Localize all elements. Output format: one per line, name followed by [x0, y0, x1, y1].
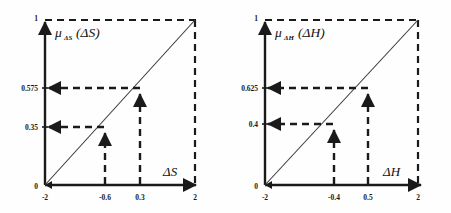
x-label-right: 2 [193, 193, 197, 202]
y-label-lo: 0.35 [25, 123, 38, 132]
x-label-hi: 0.5 [363, 193, 373, 202]
x-label-lo: -0.4 [328, 193, 340, 202]
y-axis-title-mu: μ [274, 25, 282, 40]
x-label-left: -2 [42, 193, 48, 202]
y-axis-title-arg: (ΔH) [298, 25, 325, 40]
x-label-hi: 0.3 [135, 193, 145, 202]
x-label-left: -2 [262, 193, 268, 202]
y-label-zero: 0 [34, 182, 38, 191]
right-chart-svg: 1 0.625 0.4 0 -2 -0.4 0.5 2 μ ΔH (ΔH) ΔH [225, 0, 451, 213]
y-label-hi: 0.575 [21, 84, 38, 93]
y-axis-title-mu: μ [54, 25, 62, 40]
y-label-zero: 0 [254, 182, 258, 191]
y-axis-title-arg: (ΔS) [76, 25, 100, 40]
y-axis-title-subscript: ΔS [63, 34, 72, 42]
x-label-right: 2 [416, 193, 420, 202]
left-chart-svg: 1 0.575 0.35 0 -2 -0.6 0.3 2 μ ΔS (ΔS) Δ… [0, 0, 225, 213]
figure-container: 1 0.575 0.35 0 -2 -0.6 0.3 2 μ ΔS (ΔS) Δ… [0, 0, 451, 213]
chart-panel-left: 1 0.575 0.35 0 -2 -0.6 0.3 2 μ ΔS (ΔS) Δ… [0, 0, 225, 213]
membership-line [265, 20, 418, 185]
y-label-top: 1 [254, 14, 258, 23]
membership-line [45, 20, 195, 185]
x-axis-title: ΔS [162, 164, 178, 179]
y-axis-title-subscript: ΔH [283, 34, 294, 42]
x-label-lo: -0.6 [99, 193, 111, 202]
y-label-top: 1 [34, 14, 38, 23]
y-label-lo: 0.4 [249, 120, 259, 129]
chart-panel-right: 1 0.625 0.4 0 -2 -0.4 0.5 2 μ ΔH (ΔH) ΔH [225, 0, 451, 213]
y-label-hi: 0.625 [241, 84, 258, 93]
x-axis-title: ΔH [382, 164, 401, 179]
